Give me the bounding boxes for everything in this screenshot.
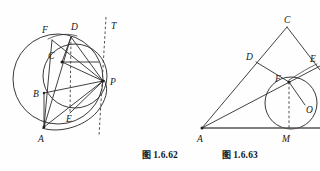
caption-cjk-right: 图	[222, 150, 231, 160]
caption-figure-1-6-63: 图1.6.63	[160, 148, 320, 161]
vertex-dot-C	[61, 61, 64, 64]
caption-number-right: 1.6.63	[233, 150, 258, 160]
point-label-D: D	[70, 22, 78, 32]
segment-BP	[44, 81, 103, 93]
vertex-dot-F	[287, 80, 290, 83]
point-label-M: M	[281, 134, 291, 144]
figure-page: F D T C P B E A	[0, 0, 320, 171]
segment-DF	[256, 62, 289, 82]
figure-1-6-62-canvas: F D T C P B E A	[0, 0, 160, 148]
cevian-AE	[202, 66, 320, 128]
segment-EP	[70, 81, 103, 113]
vertex-dot-A	[201, 127, 204, 130]
segment-FO	[289, 82, 305, 105]
vertex-dot-P	[101, 79, 104, 82]
figure-1-6-63: C D E F O A M	[160, 0, 320, 171]
point-label-A: A	[196, 134, 203, 144]
arc-FE	[289, 64, 317, 80]
vertex-dot-B	[43, 92, 45, 94]
figure-1-6-63-canvas: C D E F O A M	[160, 0, 320, 148]
point-label-E: E	[65, 114, 72, 124]
point-label-B: B	[33, 89, 39, 99]
point-label-C: C	[284, 15, 291, 25]
point-label-C: C	[48, 51, 55, 61]
point-label-T: T	[111, 21, 117, 31]
point-label-A: A	[37, 134, 44, 144]
point-label-D: D	[245, 52, 253, 62]
vertex-dot-A	[43, 126, 46, 129]
point-label-P: P	[109, 77, 116, 87]
caption-cjk-left: 图	[142, 150, 151, 160]
point-label-F: F	[41, 25, 48, 35]
point-label-O: O	[306, 105, 313, 115]
figure-1-6-62: F D T C P B E A	[0, 0, 160, 171]
segment-AP	[44, 81, 103, 127]
point-label-E: E	[309, 54, 316, 64]
dashed-chord-DE	[70, 37, 71, 113]
point-label-F: F	[274, 74, 281, 84]
